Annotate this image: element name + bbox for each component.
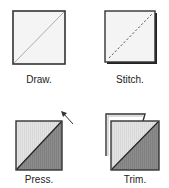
draw-label: Draw. xyxy=(4,74,74,85)
trim-square xyxy=(106,114,159,170)
draw-square xyxy=(13,11,65,64)
stitch-label: Stitch. xyxy=(95,74,165,85)
press-arrow-icon xyxy=(61,111,73,124)
stitch-square xyxy=(105,11,157,64)
trim-label: Trim. xyxy=(100,174,169,185)
press-label: Press. xyxy=(4,174,74,185)
steps-diagram xyxy=(0,0,169,188)
press-square xyxy=(16,121,62,170)
